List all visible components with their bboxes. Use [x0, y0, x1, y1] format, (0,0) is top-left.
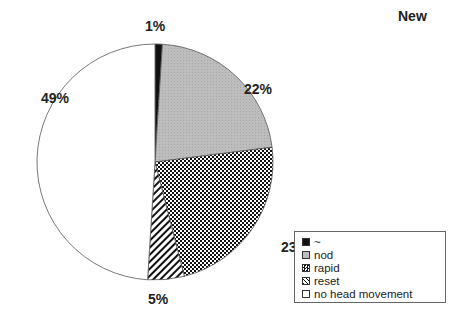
pie-slice-no-head-movement	[37, 44, 155, 280]
slice-percent-label: 1%	[145, 18, 166, 34]
legend-item-no-head-movement: no head movement	[302, 287, 445, 300]
pie-slice-nod	[155, 44, 272, 162]
legend-item-rapid: rapid	[302, 261, 445, 274]
legend-swatch-white-icon	[302, 290, 310, 298]
legend-swatch-solid-icon	[302, 238, 310, 246]
legend-swatch-checker-icon	[302, 264, 310, 272]
slice-percent-label: 49%	[41, 90, 70, 106]
legend-swatch-gray-icon	[302, 251, 310, 259]
slice-percent-label: 5%	[148, 291, 169, 307]
legend-item-tilde: ~	[302, 235, 445, 248]
legend-item-nod: nod	[302, 248, 445, 261]
legend: ~ nod rapid reset no head movement	[294, 231, 446, 303]
slice-percent-label: 22%	[244, 81, 273, 97]
legend-item-reset: reset	[302, 274, 445, 287]
legend-swatch-hatch-icon	[302, 277, 310, 285]
